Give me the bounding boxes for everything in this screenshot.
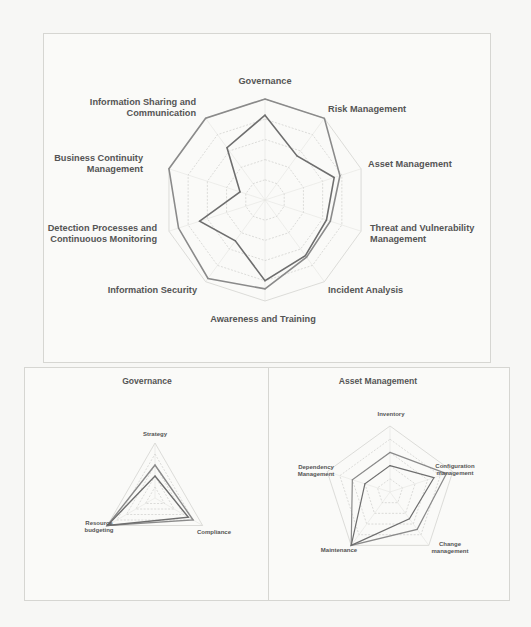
axis-spoke <box>169 200 265 231</box>
data-point <box>178 227 179 228</box>
data-point <box>306 257 307 258</box>
data-point <box>326 219 327 220</box>
data-point <box>199 221 200 222</box>
series-line-2 <box>200 115 334 281</box>
data-point <box>389 452 390 453</box>
axis-label: Threat and VulnerabilityManagement <box>370 223 475 244</box>
axis-label-line: Incident Analysis <box>328 285 403 295</box>
axis-label-line: Awareness and Training <box>210 314 316 324</box>
axis-label: Information Security <box>108 285 198 295</box>
data-point <box>205 118 206 119</box>
data-point <box>239 191 240 192</box>
data-point <box>305 255 306 256</box>
axis-label-line: Configuration <box>435 463 475 469</box>
axis-label-line: Change <box>439 541 462 547</box>
data-point <box>324 118 325 119</box>
data-point <box>193 519 194 520</box>
data-point <box>235 240 236 241</box>
data-point <box>339 175 340 176</box>
axis-label-line: Asset Management <box>368 159 452 169</box>
data-point <box>351 545 352 546</box>
axis-label: Inventory <box>377 411 405 417</box>
axis-label: Configurationmanagement <box>435 463 475 476</box>
cropped-caption-strip <box>0 612 531 627</box>
axis-spoke <box>265 169 361 200</box>
axis-label: Detection Processes andContinuouos Monit… <box>48 223 157 244</box>
axis-label: Governance <box>238 76 291 86</box>
data-point <box>334 177 335 178</box>
axis-label: Strategy <box>143 431 168 437</box>
data-point <box>188 517 189 518</box>
axis-label-line: Management <box>298 471 335 477</box>
axis-label: Resourcebudgeting <box>85 520 114 533</box>
data-point <box>364 483 365 484</box>
axis-label-line: Management <box>87 164 143 174</box>
axis-label-line: Governance <box>238 76 291 86</box>
data-point <box>226 147 227 148</box>
series-line-1 <box>169 99 340 289</box>
axis-label: Maintenance <box>321 547 358 553</box>
axis-label-line: Information Sharing and <box>90 97 196 107</box>
axis-spoke <box>206 118 265 200</box>
series-line-2 <box>107 476 188 526</box>
axis-label: Asset Management <box>368 159 452 169</box>
main-radar-chart: GovernanceRisk ManagementAsset Managemen… <box>48 76 475 324</box>
data-point <box>264 115 265 116</box>
axis-label-line: Management <box>370 234 426 244</box>
axis-label: DependencyManagement <box>298 464 335 477</box>
chart-title: Asset Management <box>339 376 417 386</box>
axis-spoke <box>169 169 265 200</box>
axis-label-line: Information Security <box>108 285 198 295</box>
axis-label-line: Continuouos Monitoring <box>50 234 157 244</box>
axis-label-line: Inventory <box>377 411 405 417</box>
axis-label: Changemanagement <box>431 541 468 554</box>
series-line-1 <box>351 452 446 545</box>
axis-label: Awareness and Training <box>210 314 316 324</box>
radar-charts: GovernanceRisk ManagementAsset Managemen… <box>0 0 531 627</box>
axis-label-line: Threat and Vulnerability <box>370 223 475 233</box>
axis-spoke <box>265 200 324 282</box>
axis-label-line: Risk Management <box>328 104 406 114</box>
axis-label-line: Dependency <box>298 464 334 470</box>
axis-label-line: management <box>431 548 468 554</box>
axis-label-line: Resource <box>85 520 113 526</box>
axis-label-line: Business Continuity <box>54 153 144 163</box>
data-point <box>389 465 390 466</box>
data-point <box>296 155 297 156</box>
axis-label: Risk Management <box>328 104 406 114</box>
chart-title: Governance <box>122 376 172 386</box>
data-point <box>352 479 353 480</box>
data-point <box>330 221 331 222</box>
data-point <box>264 288 265 289</box>
data-point <box>154 475 155 476</box>
axis-label-line: Communication <box>127 108 197 118</box>
axis-label-line: Compliance <box>197 529 232 535</box>
axis-label-line: Detection Processes and <box>48 223 157 233</box>
data-point <box>207 278 208 279</box>
data-point <box>264 98 265 99</box>
data-point <box>168 168 169 169</box>
data-point <box>417 529 418 530</box>
data-point <box>409 518 410 519</box>
governance-radar-chart: Governance StrategyComplianceResourcebud… <box>85 376 232 535</box>
data-point <box>154 464 155 465</box>
axis-label-line: Strategy <box>143 431 168 437</box>
axis-label: Business ContinuityManagement <box>54 153 144 174</box>
asset-management-radar-chart: Asset Management InventoryConfigurationm… <box>298 376 475 554</box>
axis-spoke <box>265 118 324 200</box>
axis-spoke <box>265 200 361 231</box>
axis-label: Information Sharing andCommunication <box>90 97 197 118</box>
axis-label-line: budgeting <box>85 527 114 533</box>
axis-label: Compliance <box>197 529 232 535</box>
series-line-1 <box>107 465 193 526</box>
axis-label: Incident Analysis <box>328 285 403 295</box>
data-point <box>433 477 434 478</box>
axis-label-line: Maintenance <box>321 547 358 553</box>
data-point <box>264 280 265 281</box>
axis-label-line: management <box>436 470 473 476</box>
